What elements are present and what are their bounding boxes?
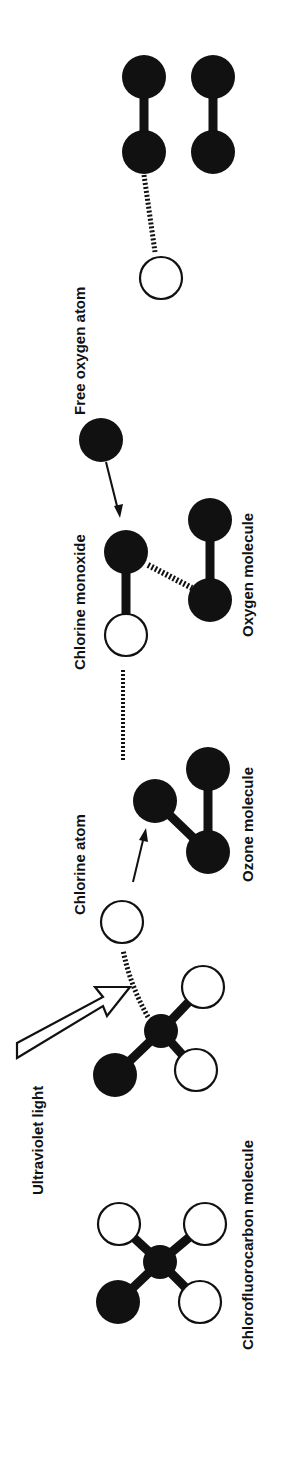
oxygen-atom bbox=[191, 130, 235, 174]
oxygen-molecule bbox=[188, 498, 232, 622]
label-free-oxygen-atom: Free oxygen atom bbox=[71, 287, 88, 415]
label-chlorine-monoxide: Chlorine monoxide bbox=[71, 534, 88, 670]
label-cfc-molecule: Chlorofluorocarbon molecule bbox=[239, 1140, 256, 1350]
oxygen-molecule-product-2 bbox=[191, 55, 235, 174]
carbon-atom bbox=[143, 1245, 177, 1279]
label-ultraviolet-light: Ultraviolet light bbox=[29, 1086, 46, 1195]
oxygen-atom bbox=[104, 530, 148, 574]
arrow-chlorine-to-ozone bbox=[133, 828, 148, 882]
label-chlorine-atom: Chlorine atom bbox=[71, 814, 88, 915]
breaking-bond bbox=[123, 950, 148, 1017]
chlorine-monoxide bbox=[104, 530, 148, 656]
oxygen-molecule-product-1 bbox=[122, 55, 166, 174]
oxygen-atom bbox=[188, 578, 232, 622]
chlorine-atom-dark bbox=[96, 1280, 140, 1324]
oxygen-atom bbox=[133, 779, 177, 823]
free-oxygen-atom bbox=[79, 418, 123, 462]
arrow-free-oxygen-to-clo bbox=[106, 462, 123, 518]
fluorine-atom bbox=[182, 966, 224, 1008]
uv-light-arrow bbox=[17, 987, 130, 1058]
ozone-depletion-diagram: Chlorofluorocarbon molecule Ultraviolet … bbox=[0, 0, 286, 1465]
oxygen-atom bbox=[122, 130, 166, 174]
chlorine-atom bbox=[179, 1281, 221, 1323]
label-ozone-molecule: Ozone molecule bbox=[239, 767, 256, 882]
cfc-molecule-intact bbox=[96, 1203, 226, 1324]
freed-chlorine-atom bbox=[140, 257, 182, 299]
oxygen-atom bbox=[186, 747, 230, 791]
released-chlorine-atom bbox=[101, 901, 143, 943]
chlorine-atom-dark bbox=[93, 1053, 137, 1097]
oxygen-atom bbox=[188, 498, 232, 542]
breaking-bond-final bbox=[144, 175, 155, 252]
carbon-atom bbox=[144, 1014, 178, 1048]
oxygen-atom bbox=[186, 830, 230, 874]
chlorine-atom bbox=[105, 614, 147, 656]
label-oxygen-molecule: Oxygen molecule bbox=[239, 513, 256, 637]
cfc-molecule-broken bbox=[93, 950, 224, 1097]
weak-bond-clo-o2 bbox=[148, 565, 192, 588]
ozone-molecule bbox=[133, 747, 230, 874]
oxygen-atom bbox=[122, 55, 166, 99]
fluorine-atom bbox=[184, 1203, 226, 1245]
fluorine-atom bbox=[175, 1049, 217, 1091]
fluorine-atom bbox=[98, 1203, 140, 1245]
oxygen-atom bbox=[191, 55, 235, 99]
